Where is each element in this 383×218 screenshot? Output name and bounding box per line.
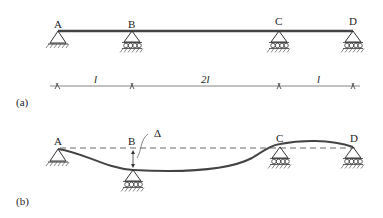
support-label-c: C [276,132,283,144]
roller-support-icon [341,147,364,169]
support-label-b: B [128,18,135,30]
part-a: A B C D l 2l l (a) [16,15,364,109]
span-label-ab: l [94,73,97,85]
deflected-beam [58,141,353,171]
roller-support-icon [341,31,364,53]
support-label-a: A [54,135,62,147]
support-label-c: C [275,15,282,27]
support-label-b: B [128,135,135,147]
roller-support-icon [268,147,291,169]
arrow-up-icon [131,150,135,154]
caption-b: (b) [16,195,29,208]
support-label-a: A [54,18,62,30]
roller-support-icon [267,31,290,53]
arrow-down-icon [131,164,135,168]
support-label-d: D [349,15,357,27]
beam-diagram: A B C D l 2l l (a) Δ A B C D (b) [0,0,383,218]
leader-line [137,134,148,158]
roller-support-icon [120,31,143,53]
span-label-cd: l [317,73,320,85]
pin-support-icon [46,31,69,48]
caption-a: (a) [16,96,29,109]
settlement-label: Δ [154,127,161,139]
roller-support-icon [121,170,144,192]
pin-support-icon [46,149,69,166]
span-label-bc: 2l [201,73,210,85]
support-label-d: D [350,132,358,144]
part-b: Δ A B C D (b) [16,127,364,208]
